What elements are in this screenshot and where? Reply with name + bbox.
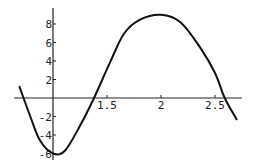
y-tick-label: 8 (45, 18, 52, 31)
y-tick-label: 6 (45, 37, 52, 50)
x-tick-label: 2 (158, 99, 165, 112)
y-tick-label: -2 (39, 111, 52, 124)
y-tick-label: 2 (45, 74, 52, 87)
data-series-line (20, 15, 237, 155)
y-tick-label: -6 (39, 148, 52, 161)
x-axis: 1.522.5 (14, 95, 242, 112)
x-tick-label: 1.5 (97, 99, 117, 112)
y-tick-label: 4 (45, 55, 52, 68)
x-tick-label: 2.5 (205, 99, 225, 112)
line-chart: 1.522.5 -6-4-22468 (0, 0, 254, 166)
y-axis: -6-4-22468 (39, 8, 56, 161)
